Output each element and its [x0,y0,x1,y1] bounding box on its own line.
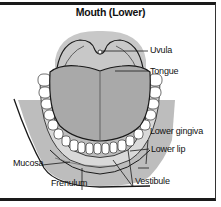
label-frenulum: Frenulum [51,178,87,188]
label-tongue: Tongue [150,66,178,76]
label-vestibule: Vestibule [135,176,170,186]
label-uvula: Uvula [150,45,172,55]
mouth-illustration [0,0,221,207]
uvula-dot [98,50,102,54]
label-lower-lip: Lower lip [151,144,185,154]
label-lower-gingiva: Lower gingiva [150,126,203,136]
label-mucosa: Mucosa [13,158,43,168]
